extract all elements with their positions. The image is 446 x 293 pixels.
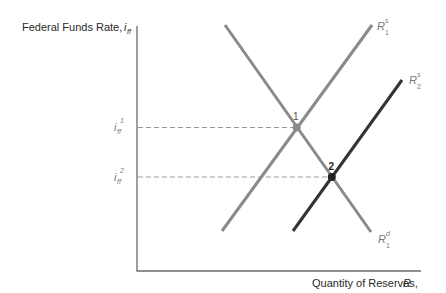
curve-label-subscript: 1	[385, 29, 389, 36]
curve-label-r1-supply: R s 1	[377, 17, 389, 36]
curve-label-r2-supply: R s 2	[409, 71, 421, 90]
x-axis-label-symbol: R	[403, 277, 411, 289]
curve-r2-supply	[293, 80, 402, 231]
y-axis-label-text: Federal Funds Rate,	[22, 21, 122, 33]
equilibrium-label-2: 2	[329, 161, 335, 172]
curve-label-symbol: R	[378, 233, 386, 245]
y-axis-label: Federal Funds Rate, i ff	[22, 21, 132, 35]
x-axis-label: Quantity of Reserves, R	[312, 277, 418, 289]
y-tick-subscript: ff	[117, 128, 122, 135]
y-axis-label-subscript: ff	[127, 28, 132, 35]
curve-label-subscript: 1	[386, 242, 390, 249]
y-tick-subscript: ff	[117, 178, 122, 185]
curve-label-r1-demand: R d 1	[378, 230, 391, 249]
curve-label-superscript: d	[386, 230, 391, 237]
curve-label-subscript: 2	[417, 83, 421, 90]
y-tick-superscript: 1	[120, 117, 124, 124]
y-tick-label-i-ff-1: i ff 1	[114, 117, 124, 135]
curve-label-superscript: s	[385, 17, 389, 24]
equilibrium-point-2	[328, 173, 336, 181]
curve-label-symbol: R	[409, 74, 417, 86]
reserves-market-chart: Federal Funds Rate, i ff Quantity of Res…	[0, 0, 446, 293]
y-tick-superscript: 2	[119, 167, 124, 174]
y-tick-label-i-ff-2: i ff 2	[114, 167, 124, 185]
x-axis-label-text: Quantity of Reserves,	[312, 277, 418, 289]
curve-label-superscript: s	[417, 71, 421, 78]
equilibrium-point-1	[293, 124, 301, 132]
curve-label-symbol: R	[377, 20, 385, 32]
equilibrium-label-1: 1	[293, 111, 299, 122]
